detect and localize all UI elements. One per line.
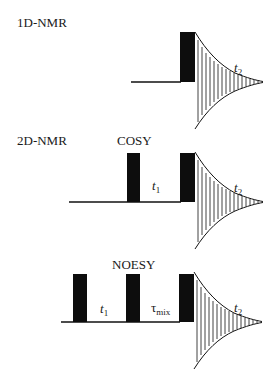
sequence-title-cosy: COSY: [117, 133, 152, 148]
evolution-time-label: t1: [100, 301, 108, 318]
mixing-time-label: τmix: [151, 300, 171, 317]
rf-pulse-1: [73, 274, 87, 322]
acq-time-label: t2: [234, 180, 242, 197]
section-1d-nmr: 1D-NMR t2: [17, 15, 263, 129]
acq-time-label: t2: [234, 300, 242, 317]
nmr-pulse-diagram: 1D-NMR t2 2D-NMR COSY t1 t2 NOESY t1 τ: [0, 0, 272, 385]
fid-signal: [195, 32, 263, 129]
section-noesy: NOESY t1 τmix t2: [61, 257, 262, 369]
rf-pulse-1: [127, 153, 140, 202]
rf-pulse-2: [126, 274, 140, 322]
rf-pulse-2: [180, 153, 195, 202]
evolution-time-label: t1: [152, 178, 160, 195]
section-cosy: 2D-NMR COSY t1 t2: [17, 133, 263, 249]
fid-signal: [194, 272, 262, 369]
fid-signal: [195, 152, 263, 249]
section-label-1d: 1D-NMR: [17, 15, 67, 30]
sequence-title-noesy: NOESY: [112, 257, 156, 272]
rf-pulse: [180, 32, 195, 82]
rf-pulse-3: [179, 274, 194, 322]
acq-time-label: t2: [234, 60, 242, 77]
section-label-2d: 2D-NMR: [17, 133, 67, 148]
